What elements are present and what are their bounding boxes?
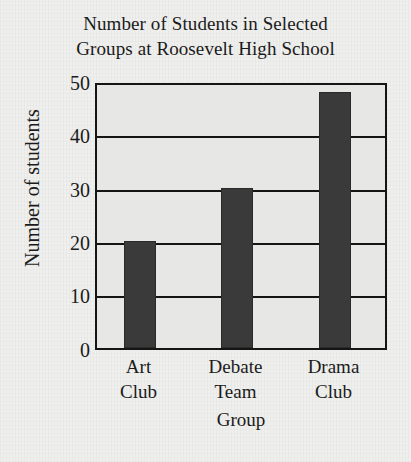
x-tick-label-debate-team-line-2: Team (187, 379, 284, 404)
x-tick-label-art-club-line-2: Club (90, 379, 187, 404)
x-tick-label-debate-team-line-1: Debate (187, 354, 284, 379)
y-tick-label-40: 40 (46, 126, 90, 146)
y-axis-title: Number of students (21, 63, 43, 313)
x-axis-title: Group (95, 409, 387, 431)
chart-title-line-2: Groups at Roosevelt High School (0, 36, 411, 61)
x-tick-label-drama-club-line-2: Club (285, 379, 382, 404)
x-axis-tick-labels: Art Club Debate Team Drama Club (95, 354, 387, 410)
y-tick-label-30: 30 (46, 180, 90, 200)
x-tick-label-drama-club: Drama Club (285, 354, 382, 404)
chart-title-line-1: Number of Students in Selected (0, 11, 411, 36)
x-tick-label-art-club: Art Club (90, 354, 187, 404)
bar-debate-team[interactable] (221, 188, 253, 348)
x-tick-label-drama-club-line-1: Drama (285, 354, 382, 379)
bar-chart-figure: Number of Students in Selected Groups at… (0, 0, 411, 462)
bar-art-club[interactable] (124, 241, 156, 348)
chart-title: Number of Students in Selected Groups at… (0, 11, 411, 61)
y-tick-label-0: 0 (46, 340, 90, 360)
y-tick-label-20: 20 (46, 233, 90, 253)
bar-drama-club[interactable] (319, 92, 351, 348)
y-tick-label-50: 50 (46, 73, 90, 93)
y-axis-tick-labels: 50 40 30 20 10 0 (42, 83, 90, 350)
y-tick-label-10: 10 (46, 286, 90, 306)
plot-area (95, 83, 387, 350)
x-tick-label-art-club-line-1: Art (90, 354, 187, 379)
x-tick-label-debate-team: Debate Team (187, 354, 284, 404)
